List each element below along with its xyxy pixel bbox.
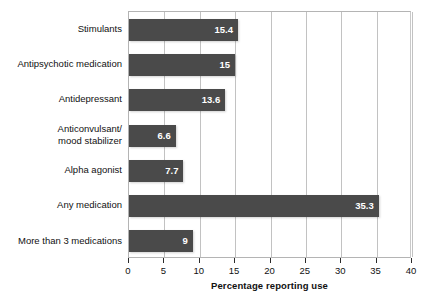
category-label: Antipsychotic medication (0, 58, 122, 70)
x-axis-tick-label: 35 (370, 265, 381, 276)
category-label: Anticonvulsant/ mood stabilizer (0, 123, 122, 146)
gridline (235, 12, 236, 257)
bar: 15 (129, 54, 235, 76)
gridline (200, 12, 201, 257)
x-axis-tick-label: 5 (161, 265, 166, 276)
x-axis-tick (234, 258, 235, 263)
bar-value-label: 35.3 (355, 201, 374, 211)
x-axis-tick (163, 258, 164, 263)
category-label: More than 3 medications (0, 235, 122, 247)
bar: 6.6 (129, 125, 176, 147)
x-axis-tick-label: 40 (406, 265, 417, 276)
category-label: Any medication (0, 199, 122, 211)
x-axis-tick-label: 25 (300, 265, 311, 276)
x-axis-tick-label: 15 (229, 265, 240, 276)
category-axis-labels: StimulantsAntipsychotic medicationAntide… (0, 11, 122, 258)
bar-value-label: 6.6 (157, 131, 170, 141)
gridline (306, 12, 307, 257)
category-label: Antidepressant (0, 93, 122, 105)
x-axis-tick-label: 10 (193, 265, 204, 276)
x-axis-tick (376, 258, 377, 263)
category-label: Alpha agonist (0, 164, 122, 176)
bar-value-label: 9 (182, 237, 187, 247)
x-axis-tick (305, 258, 306, 263)
bar-value-label: 7.7 (165, 166, 178, 176)
x-axis-tick (270, 258, 271, 263)
x-axis-tick (199, 258, 200, 263)
x-axis-tick-label: 20 (264, 265, 275, 276)
bar: 9 (129, 230, 193, 252)
bar: 15.4 (129, 19, 238, 41)
bar: 7.7 (129, 160, 183, 182)
gridline (377, 12, 378, 257)
x-axis-title: Percentage reporting use (128, 280, 411, 291)
gridline (412, 12, 413, 257)
bar-chart-figure: StimulantsAntipsychotic medicationAntide… (0, 0, 431, 298)
gridline (341, 12, 342, 257)
bar: 35.3 (129, 195, 379, 217)
gridline (271, 12, 272, 257)
bar-value-label: 15 (220, 60, 231, 70)
x-axis-tick-label: 0 (125, 265, 130, 276)
x-axis-tick (340, 258, 341, 263)
x-axis-tick (128, 258, 129, 263)
x-axis: Percentage reporting use 051015202530354… (128, 258, 411, 298)
x-axis-tick (411, 258, 412, 263)
bar-value-label: 13.6 (202, 95, 221, 105)
bar-value-label: 15.4 (214, 25, 233, 35)
bar: 13.6 (129, 89, 225, 111)
category-label: Stimulants (0, 23, 122, 35)
plot-area: 15.41513.66.67.735.39 (128, 11, 411, 258)
x-axis-tick-label: 30 (335, 265, 346, 276)
